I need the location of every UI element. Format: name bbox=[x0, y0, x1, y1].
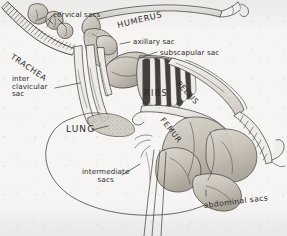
diagram-canvas: TRACHEA HUMERUS PELVIS FEMUR abdominal s… bbox=[0, 0, 287, 236]
label-interclavicular-sac: inter clavicular sac bbox=[12, 75, 47, 98]
label-cervical-sacs: cervical sacs bbox=[53, 11, 100, 19]
label-intermediate-line2: sacs bbox=[82, 176, 129, 184]
label-subscapular-sac: subscapular sac bbox=[160, 49, 219, 57]
anatomical-figure: TRACHEA HUMERUS PELVIS FEMUR abdominal s… bbox=[0, 0, 287, 236]
label-intermediate-sacs: intermediate sacs bbox=[82, 168, 129, 183]
label-interclavicular-line3: sac bbox=[12, 90, 47, 98]
label-ribs: RIBS bbox=[144, 90, 168, 98]
label-lung: LUNG bbox=[66, 125, 95, 134]
label-axillary-sac: axillary sac bbox=[133, 38, 175, 46]
